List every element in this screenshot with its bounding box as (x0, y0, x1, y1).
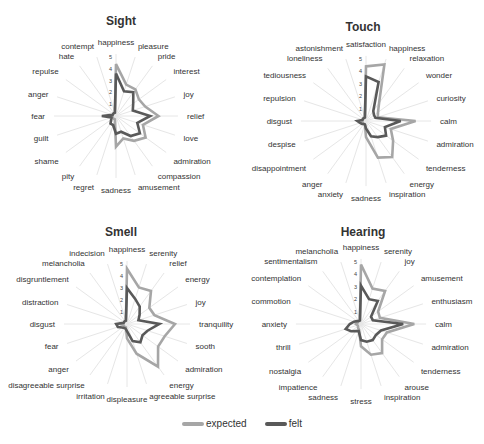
axis-label: arouse (405, 383, 430, 392)
axis-label: admiration (185, 365, 222, 374)
axis-spoke (366, 68, 404, 121)
axis-spoke (90, 324, 127, 375)
axis-label: serenity (149, 249, 177, 258)
tick-label: 5 (120, 261, 123, 267)
tick-label: 4 (109, 66, 112, 72)
axis-label: sentimentalism (264, 257, 318, 266)
axis-label: despise (268, 140, 296, 149)
axis-label: amusement (138, 183, 181, 192)
radar-plot: 12345satisfactionhappinessrelaxationwond… (242, 0, 484, 210)
axis-label: anger (48, 365, 69, 374)
tick-label: 3 (354, 284, 357, 290)
axis-label: energy (185, 275, 209, 284)
axis-label: guilt (34, 134, 49, 143)
axis-spoke (57, 97, 116, 116)
axis-label: tenderness (426, 164, 466, 173)
axis-spoke (127, 287, 178, 324)
axis-label: commotion (251, 297, 290, 306)
axis-label: hate (59, 52, 75, 61)
axis-label: relief (187, 112, 205, 121)
axis-label: nostalgia (269, 367, 302, 376)
axis-spoke (304, 121, 366, 141)
axis-label: energy (410, 180, 434, 189)
axis-label: melancholia (42, 259, 85, 268)
axis-label: disgust (30, 320, 56, 329)
axis-label: repulse (32, 67, 59, 76)
axis-spoke (97, 57, 116, 116)
axis-label: repulsion (263, 94, 295, 103)
axis-spoke (346, 59, 366, 121)
axis-label: admiration (431, 343, 468, 352)
axis-label: fear (45, 342, 59, 351)
axis-label: irritation (76, 392, 104, 401)
axis-spoke (299, 304, 361, 324)
axis-label: pride (158, 52, 176, 61)
axis-label: joy (195, 298, 206, 307)
axis-label: disagreeable surprise (8, 381, 85, 390)
axis-label: energy (169, 381, 193, 390)
axis-label: anxiety (318, 190, 343, 199)
axis-label: interest (173, 67, 200, 76)
tick-label: 3 (120, 285, 123, 291)
tick-label: 2 (109, 89, 112, 95)
axis-spoke (304, 101, 366, 121)
tick-label: 5 (359, 56, 362, 62)
axis-label: enthusiasm (431, 297, 472, 306)
axis-label: displeasure (107, 395, 148, 404)
axis-label: tediousness (263, 71, 306, 80)
axis-label: wonder (425, 71, 453, 80)
axis-spoke (57, 116, 116, 135)
axis-label: joy (183, 90, 194, 99)
axis-label: tenderness (421, 367, 461, 376)
axis-label: love (184, 134, 199, 143)
tick-label: 4 (120, 273, 123, 279)
axis-spoke (341, 262, 361, 324)
axis-label: admiration (436, 140, 473, 149)
axis-label: tranquility (199, 320, 233, 329)
axis-label: inspiration (389, 190, 425, 199)
axis-label: thrill (276, 343, 291, 352)
axis-spoke (108, 324, 127, 384)
tick-label: 5 (354, 259, 357, 265)
tick-label: 1 (359, 106, 362, 112)
hearing-chart: Hearing 12345happinessserenityjoyamuseme… (242, 220, 484, 430)
axis-label: stress (350, 397, 371, 406)
axis-label: joy (404, 257, 415, 266)
axis-label: admiration (173, 157, 210, 166)
axis-spoke (76, 287, 127, 324)
axis-spoke (127, 305, 187, 324)
axis-label: happiness (109, 245, 145, 254)
tick-label: 4 (354, 271, 357, 277)
axis-label: loneliness (287, 54, 323, 63)
axis-label: contemplation (251, 274, 301, 283)
axis-label: fear (31, 112, 45, 121)
legend-item-felt: felt (265, 418, 302, 429)
axis-label: calm (435, 320, 452, 329)
axis-label: distraction (22, 298, 58, 307)
axis-label: anger (302, 180, 323, 189)
axis-label: serenity (384, 247, 412, 256)
axis-label: sooth (196, 342, 216, 351)
axis-label: disappointment (252, 164, 307, 173)
axis-label: contempt (61, 42, 95, 51)
legend-swatch-felt (265, 422, 287, 426)
axis-spoke (76, 324, 127, 361)
axis-label: anger (28, 90, 49, 99)
axis-spoke (308, 324, 361, 362)
axis-spoke (299, 324, 361, 344)
axis-label: impatience (279, 383, 318, 392)
axis-spoke (308, 286, 361, 324)
tick-label: 3 (109, 78, 112, 84)
axis-label: compassion (158, 172, 201, 181)
sight-chart: Sight 12345happinesspleasureprideinteres… (0, 0, 242, 210)
legend-item-expected: expected (182, 418, 247, 429)
tick-label: 4 (359, 68, 362, 74)
axis-label: pity (62, 172, 74, 181)
radar-plot: 12345happinesspleasureprideinterestjoyre… (0, 0, 242, 210)
axis-label: relaxation (410, 54, 445, 63)
tick-label: 5 (109, 54, 112, 60)
chart-legend: expected felt (0, 418, 484, 429)
axis-spoke (328, 121, 366, 174)
legend-swatch-expected (182, 422, 204, 426)
radar-plot: 12345happinessserenityreliefenergyjoytra… (0, 220, 242, 420)
